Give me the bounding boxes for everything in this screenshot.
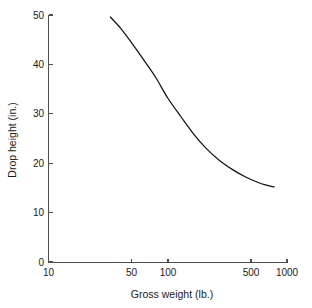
- y-tick-label-50: 50: [33, 10, 45, 21]
- x-tick-marks: [49, 259, 288, 263]
- x-tick-label-100: 100: [160, 267, 177, 278]
- x-tick-labels: 10 50 100 500 1000: [43, 267, 299, 278]
- chart-figure: 50 40 30 20 10 0 10 50 100 500 1000 Gros…: [0, 0, 312, 308]
- x-axis-title: Gross weight (lb.): [131, 288, 213, 300]
- chart-canvas: 50 40 30 20 10 0 10 50 100 500 1000 Gros…: [0, 0, 312, 308]
- x-tick-label-10: 10: [43, 267, 55, 278]
- x-tick-label-500: 500: [243, 267, 260, 278]
- y-tick-label-40: 40: [33, 59, 45, 70]
- y-tick-label-30: 30: [33, 108, 45, 119]
- y-tick-label-10: 10: [33, 207, 45, 218]
- axis-lines: [48, 15, 287, 263]
- x-tick-label-1000: 1000: [276, 267, 299, 278]
- data-series-line: [110, 17, 274, 187]
- y-tick-labels: 50 40 30 20 10 0: [33, 10, 45, 268]
- y-axis-title: Drop height (in.): [6, 102, 18, 177]
- x-tick-label-50: 50: [126, 267, 138, 278]
- y-tick-label-20: 20: [33, 158, 45, 169]
- y-tick-marks: [49, 15, 53, 262]
